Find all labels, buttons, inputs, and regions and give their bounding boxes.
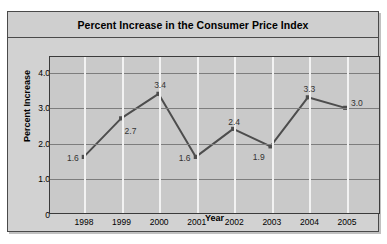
data-point-value-label: 2.4 — [228, 118, 240, 127]
chart-body: Percent Increase 01.02.03.04.0 199819992… — [8, 38, 378, 231]
data-point-value-label: 3.0 — [351, 99, 363, 108]
plot-area — [49, 56, 380, 214]
gridline-horizontal — [50, 73, 379, 74]
y-axis-tick-label: 0 — [26, 211, 50, 220]
gridline-vertical — [272, 57, 274, 213]
gridline-horizontal — [50, 108, 379, 109]
gridline-vertical — [234, 57, 236, 213]
gridline-horizontal — [50, 144, 379, 145]
gridline-horizontal — [50, 179, 379, 180]
chart-title: Percent Increase in the Consumer Price I… — [78, 19, 309, 31]
gridline-vertical — [197, 57, 199, 213]
data-point-value-label: 1.6 — [67, 154, 79, 163]
data-point-value-label: 3.3 — [303, 85, 315, 94]
x-axis-title: Year — [49, 213, 380, 223]
y-axis-tick-label: 4.0 — [26, 69, 50, 78]
y-axis-tick-labels: 01.02.03.04.0 — [22, 38, 50, 231]
gridline-vertical — [309, 57, 311, 213]
y-axis-tick-label: 1.0 — [26, 175, 50, 184]
chart-title-band: Percent Increase in the Consumer Price I… — [8, 12, 378, 38]
data-point-value-label: 2.7 — [125, 127, 137, 136]
y-axis-tick-label: 2.0 — [26, 140, 50, 149]
data-point-value-label: 1.9 — [253, 153, 265, 162]
data-point-value-label: 3.4 — [154, 81, 166, 90]
gridline-vertical — [347, 57, 349, 213]
data-point-value-label: 1.6 — [179, 154, 191, 163]
chart-figure-frame: Percent Increase in the Consumer Price I… — [7, 11, 379, 232]
y-axis-tick-label: 3.0 — [26, 104, 50, 113]
gridline-vertical — [84, 57, 86, 213]
series-line-chart — [50, 57, 379, 213]
